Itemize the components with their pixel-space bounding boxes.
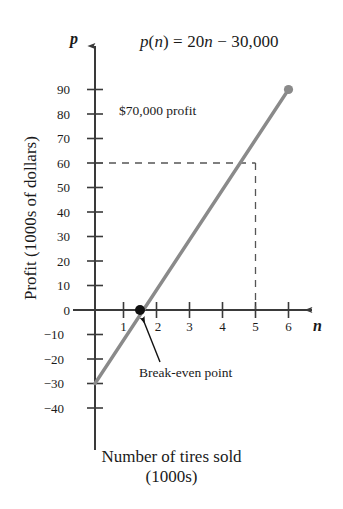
y-tick-label-neg10: −10 [22, 328, 64, 341]
equation-n-arg: n [154, 32, 163, 51]
equation-constant: − 30,000 [213, 32, 279, 51]
x-tick-label-4: 4 [213, 320, 233, 333]
line-endpoint-marker [284, 85, 293, 94]
y-tick-label-neg30: −30 [22, 377, 64, 390]
break-even-annotation-label: Break-even point [139, 366, 232, 380]
profit-line [95, 90, 289, 384]
x-axis-caption-line1: Number of tires sold [101, 447, 241, 466]
profit-annotation-label: $70,000 profit [119, 104, 196, 118]
y-axis-caption: Profit (1000s of dollars) [22, 136, 39, 300]
y-tick-label-0: 0 [28, 304, 70, 317]
y-tick-label-90: 90 [28, 83, 70, 96]
profit-guide-lines [96, 163, 256, 309]
y-axis-variable-label: p [70, 31, 78, 47]
x-tick-label-1: 1 [114, 320, 134, 333]
x-tick-label-5: 5 [246, 320, 266, 333]
x-axis-variable-label: n [313, 318, 322, 334]
x-axis-caption: Number of tires sold (1000s) [0, 448, 343, 485]
break-even-point-marker [135, 305, 145, 315]
y-tick-label-neg40: −40 [22, 402, 64, 415]
equation-label: p(n) = 20n − 30,000 [140, 33, 279, 50]
equation-n-var: n [204, 32, 213, 51]
equation-equals-coeff: = 20 [169, 32, 205, 51]
x-tick-label-2: 2 [148, 320, 168, 333]
y-tick-label-80: 80 [28, 108, 70, 121]
y-axis [87, 46, 103, 450]
profit-graph-figure: 90 80 70 60 50 40 30 20 10 0 −10 −20 −30… [0, 0, 343, 509]
x-tick-label-6: 6 [279, 320, 299, 333]
x-axis [73, 302, 312, 318]
x-axis-caption-line2: (1000s) [0, 468, 343, 485]
profit-line-series [95, 85, 293, 384]
equation-p: p [140, 32, 149, 51]
y-tick-label-neg20: −20 [22, 353, 64, 366]
x-tick-label-3: 3 [180, 320, 200, 333]
